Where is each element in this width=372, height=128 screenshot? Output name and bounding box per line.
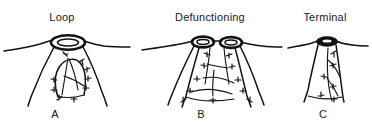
mesentery-lower-b	[191, 90, 232, 94]
panel-title-terminal: Terminal	[288, 11, 362, 23]
abdominal-wall-left-a	[28, 47, 54, 106]
bowel-base-c	[308, 96, 342, 99]
abdominal-wall-right-a	[83, 47, 107, 106]
panel-c-terminal-illustration	[288, 37, 368, 102]
bowel-medial-right-b	[224, 48, 229, 84]
skin-line-right-b	[241, 42, 282, 47]
skin-line-right-c	[336, 41, 368, 46]
stoma-types-figure: Loop Defunctioning Terminal A B C	[0, 0, 372, 128]
skin-line-left-c	[288, 41, 318, 48]
mesentery-mid-b	[203, 77, 234, 83]
stoma-lumen-c	[323, 40, 332, 43]
mesentery-strand-a	[64, 76, 84, 86]
mesentery-upper-b	[207, 64, 228, 68]
panel-title-defunctioning: Defunctioning	[155, 11, 265, 23]
mesentery-fold-b	[213, 70, 214, 96]
panel-letter-c: C	[308, 108, 338, 120]
bowel-inner-contour-c	[327, 48, 332, 101]
abdominal-wall-right-b	[240, 46, 264, 105]
stoma-opening-inner-b-right	[225, 40, 237, 45]
panel-b-defunctioning-illustration	[142, 37, 282, 107]
skin-line-right-a	[84, 41, 130, 47]
stoma-opening-inner-a	[58, 39, 79, 46]
skin-line-left-b	[142, 41, 193, 50]
stoma-opening-outer-b-left	[192, 37, 214, 48]
panel-a-loop-illustration	[4, 35, 130, 106]
panel-title-loop: Loop	[22, 11, 102, 23]
stoma-opening-inner-b-left	[197, 40, 209, 45]
bowel-loop-inner-leaf-a	[69, 59, 78, 90]
abdominal-wall-left-b	[168, 46, 194, 105]
panel-letter-a: A	[40, 108, 70, 120]
panel-letter-b: B	[186, 108, 216, 120]
stoma-opening-outer-b-right	[220, 37, 242, 48]
bowel-limb-left-c	[304, 45, 318, 102]
stoma-opening-outer-a	[51, 35, 85, 49]
skin-line-left-a	[4, 40, 53, 51]
